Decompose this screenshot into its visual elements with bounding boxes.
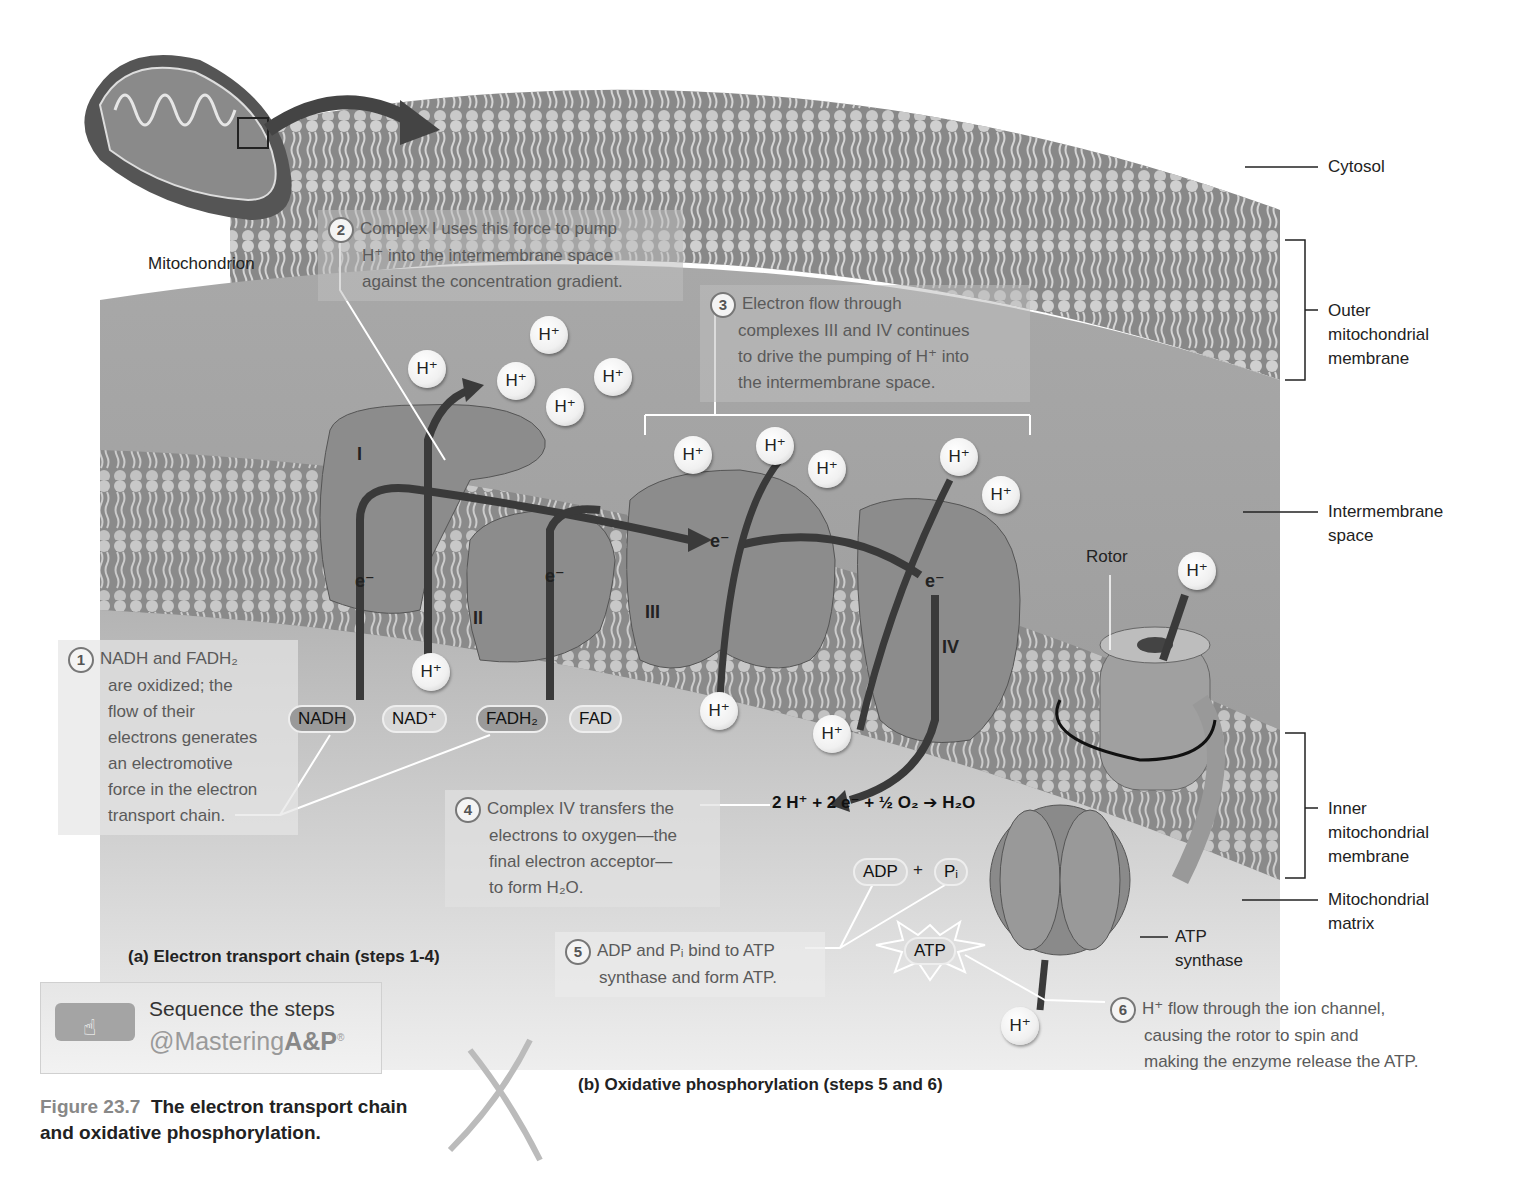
electron-label: e⁻	[925, 570, 945, 592]
atp-synthase-label: ATPsynthase	[1175, 925, 1243, 973]
mastering-sequence-link[interactable]: ☝ Sequence the steps @MasteringA&P®	[40, 982, 382, 1074]
part-b-caption: (b) Oxidative phosphorylation (steps 5 a…	[578, 1075, 943, 1095]
proton-ion: H⁺	[674, 436, 712, 474]
atp-pill: ATP	[904, 937, 956, 965]
step-number: 5	[565, 939, 591, 965]
complex-I-label: I	[357, 444, 362, 465]
proton-ion: H⁺	[530, 316, 568, 354]
proton-ion: H⁺	[756, 427, 794, 465]
mastering-brand: @MasteringA&P®	[149, 1027, 344, 1056]
mitochondrion-label: Mitochondrion	[148, 252, 255, 276]
adp-pill: ADP	[853, 858, 908, 886]
step-number: 3	[710, 292, 736, 318]
proton-ion: H⁺	[940, 438, 978, 476]
step-6-callout: 6H⁺ flow through the ion channel, causin…	[1100, 990, 1465, 1081]
step-number: 6	[1110, 997, 1136, 1023]
pi-pill: Pᵢ	[934, 858, 968, 886]
electron-label: e⁻	[710, 530, 730, 552]
proton-ion: H⁺	[408, 350, 446, 388]
intermembrane-space-label: Intermembranespace	[1328, 500, 1443, 548]
proton-ion: H⁺	[700, 692, 738, 730]
electron-label: e⁻	[355, 570, 375, 592]
outer-membrane-label: Outermitochondrialmembrane	[1328, 299, 1429, 371]
plus-sign: +	[913, 860, 923, 880]
complex-II-label: II	[473, 608, 483, 629]
step-number: 1	[68, 647, 94, 673]
step-number: 4	[455, 797, 481, 823]
proton-ion: H⁺	[594, 358, 632, 396]
proton-ion: H⁺	[813, 715, 851, 753]
part-a-caption: (a) Electron transport chain (steps 1-4)	[128, 947, 440, 967]
complex-IV-label: IV	[942, 637, 959, 658]
cytosol-label: Cytosol	[1328, 155, 1385, 179]
step-3-callout: 3Electron flow through complexes III and…	[700, 285, 1030, 402]
hand-pointer-icon: ☝	[83, 1015, 96, 1041]
step-1-callout: 1NADH and FADH₂ are oxidized; the flow o…	[58, 640, 298, 835]
nadh-pill: NADH	[288, 705, 356, 733]
proton-ion: H⁺	[982, 476, 1020, 514]
step-5-callout: 5ADP and Pᵢ bind to ATP synthase and for…	[555, 932, 825, 997]
complex-III-shape	[627, 470, 835, 668]
proton-ion: H⁺	[497, 362, 535, 400]
mastering-title: Sequence the steps	[149, 997, 335, 1021]
fad-pill: FAD	[569, 705, 622, 733]
step-number: 2	[328, 217, 354, 243]
inner-membrane-label: Innermitochondrialmembrane	[1328, 797, 1429, 869]
figure-number: Figure 23.7	[40, 1096, 140, 1117]
proton-ion: H⁺	[1178, 552, 1216, 590]
sequence-button[interactable]: ☝	[55, 1003, 135, 1041]
proton-ion: H⁺	[1001, 1007, 1039, 1045]
mitochondrion-icon	[84, 55, 291, 220]
proton-ion: H⁺	[546, 388, 584, 426]
nad-pill: NAD⁺	[382, 705, 447, 733]
matrix-label: Mitochondrialmatrix	[1328, 888, 1429, 936]
rotor-label: Rotor	[1086, 545, 1128, 569]
step-2-callout: 2Complex I uses this force to pump H⁺ in…	[318, 210, 683, 301]
step-4-callout: 4Complex IV transfers the electrons to o…	[445, 790, 720, 907]
fadh2-pill: FADH₂	[476, 705, 548, 733]
electron-label: e⁻	[545, 565, 565, 587]
proton-ion: H⁺	[412, 653, 450, 691]
complex-III-label: III	[645, 602, 660, 623]
figure-caption: Figure 23.7 The electron transport chain…	[40, 1094, 407, 1146]
proton-ion: H⁺	[808, 450, 846, 488]
oxygen-reduction-equation: 2 H⁺ + 2 e⁻ + ½ O₂ ➔ H₂O	[772, 792, 975, 813]
